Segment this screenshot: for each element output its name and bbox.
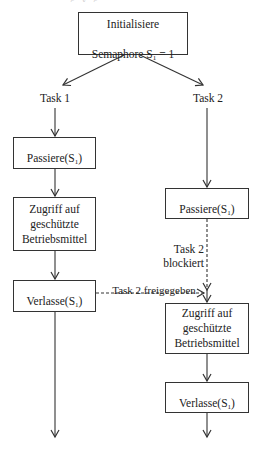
task2-access-text: Zugriff auf geschützte Betriebsmittel <box>174 306 239 351</box>
init-line1: Initialisiere <box>107 18 159 30</box>
init-line2-prefix: Semaphore S <box>92 48 153 60</box>
task1-access-text: Zugriff auf geschützte Betriebsmittel <box>22 202 87 247</box>
task2-leave-box: Verlasse(S1) <box>165 382 249 413</box>
task2-leave-prefix: Verlasse(S <box>179 397 228 409</box>
init-semaphore-box: Initialisiere Semaphore S1 = 1 <box>78 12 188 55</box>
task1-pass-prefix: Passiere(S <box>27 152 75 164</box>
task1-leave-box: Verlasse(S1) <box>13 280 96 312</box>
task2-blocked-label: Task 2 blockiert <box>160 242 204 270</box>
task2-pass-suffix: ) <box>231 203 235 215</box>
task1-leave-prefix: Verlasse(S <box>27 295 76 307</box>
task1-pass-box: Passiere(S1) <box>13 137 96 169</box>
task1-access-box: Zugriff auf geschützte Betriebsmittel <box>13 197 96 251</box>
task2-access-box: Zugriff auf geschützte Betriebsmittel <box>165 303 249 354</box>
release-label: Task 2 freigegeben <box>106 283 202 297</box>
task2-label: Task 2 <box>187 91 229 105</box>
task2-leave-suffix: ) <box>231 397 235 409</box>
semaphore-flowchart: g y g Initialisiere Semaphore S1 = 1 <box>0 0 264 453</box>
task2-pass-box: Passiere(S1) <box>165 188 249 219</box>
task1-leave-suffix: ) <box>79 295 83 307</box>
task1-label: Task 1 <box>35 91 75 105</box>
task2-pass-prefix: Passiere(S <box>179 203 227 215</box>
task1-pass-suffix: ) <box>78 152 82 164</box>
init-line2-suffix: = 1 <box>156 48 174 60</box>
